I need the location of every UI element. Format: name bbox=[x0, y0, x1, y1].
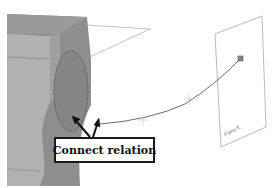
connect-relation-callout: Connect relation bbox=[54, 137, 155, 163]
elliptical-face bbox=[54, 51, 88, 131]
callout-label: Connect relation bbox=[53, 144, 156, 157]
endpoint-marker bbox=[238, 56, 243, 61]
guide-lines bbox=[87, 25, 150, 57]
